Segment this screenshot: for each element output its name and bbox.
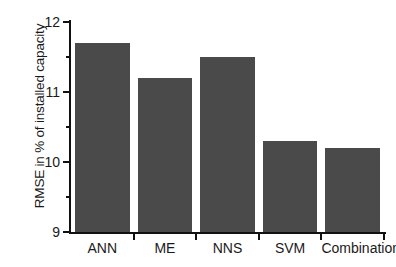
y-tick-mark [63,21,71,23]
bar-chart-figure: RMSE in % of installed capacity 9101112 … [0,0,396,267]
bar [75,43,130,232]
x-tick-mark [383,233,385,240]
y-tick-label-text: 12 [20,15,60,29]
bar [325,148,380,232]
bar [138,78,193,232]
x-tick-mark [320,233,322,240]
y-tick-mark [63,161,71,163]
y-tick-label: 10 [20,155,60,169]
y-minor-tick-mark [66,56,71,58]
x-category-label: SVM [259,240,322,258]
y-minor-tick-mark [66,196,71,198]
y-minor-tick-mark [66,126,71,128]
y-tick-label-text: 10 [20,155,60,169]
y-tick-label: 9 [20,225,60,239]
x-category-label: NNS [196,240,259,258]
y-tick-mark [63,231,71,233]
x-category-label: Combination [321,240,384,258]
y-tick-label-text: 9 [20,225,60,239]
x-axis-line [69,232,386,234]
bar [200,57,255,232]
x-tick-mark [133,233,135,240]
bar [263,141,318,232]
y-tick-label: 12 [20,15,60,29]
x-tick-mark [258,233,260,240]
x-category-label: ANN [71,240,134,258]
y-tick-label-text: 11 [20,85,60,99]
x-tick-mark [195,233,197,240]
y-tick-mark [63,91,71,93]
x-category-label: ME [134,240,197,258]
y-axis-title: RMSE in % of installed capacity [26,0,52,232]
y-tick-label: 11 [20,85,60,99]
